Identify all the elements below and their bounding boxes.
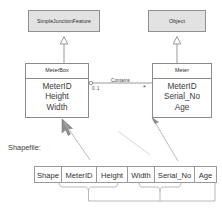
uml-class-simplejunctionfeature[interactable]: SimpleJunctionFeature [28,10,100,32]
uml-attributes-meter: MeterID Serial_No Age [153,79,211,117]
brace-meter-columns [139,182,181,192]
uml-attribute: Width [28,103,86,114]
shapefile-table[interactable]: Shape MeterID Height Width Serial_No Age [34,166,217,183]
uml-class-object[interactable]: Object [148,10,206,32]
uml-class-meter[interactable]: Meter MeterID Serial_No Age [152,63,212,118]
table-column-header[interactable]: Width [128,167,155,182]
uml-class-name-object: Object [149,11,205,31]
association-source-multiplicity: 0..1 [92,86,100,91]
brace-meterbox-columns [59,182,118,192]
uml-class-name-meter: Meter [153,64,211,79]
table-column-header[interactable]: Serial_No [155,167,195,182]
uml-attribute: MeterID [155,82,209,93]
uml-class-name-meterbox: MeterBox [26,64,88,79]
shapefile-label: Shapefile: [8,143,41,152]
shapefile-guide [118,131,150,155]
uml-diagram-canvas: SimpleJunctionFeature Object MeterBox Me… [0,0,222,212]
uml-attributes-meterbox: MeterID Height Width [26,79,88,117]
association-name-label: Contains [111,78,130,83]
uml-attribute: Age [155,103,209,114]
table-column-header[interactable]: Shape [35,167,62,182]
uml-attribute: Height [28,92,86,103]
table-column-header[interactable]: Age [195,167,216,182]
uml-attribute: MeterID [28,82,86,93]
association-target-multiplicity: * [143,86,146,90]
table-column-header[interactable]: Height [97,167,128,182]
generalization-meter-to-object [173,37,181,64]
uml-class-meterbox[interactable]: MeterBox MeterID Height Width [25,63,89,118]
uml-attribute: Serial_No [155,92,209,103]
generalization-meterbox-to-simplejunctionfeature [60,37,68,64]
uml-class-name-simplejunctionfeature: SimpleJunctionFeature [29,11,99,31]
leader-meterbox [64,122,90,160]
leader-meter [152,118,178,162]
table-column-header[interactable]: MeterID [62,167,97,182]
